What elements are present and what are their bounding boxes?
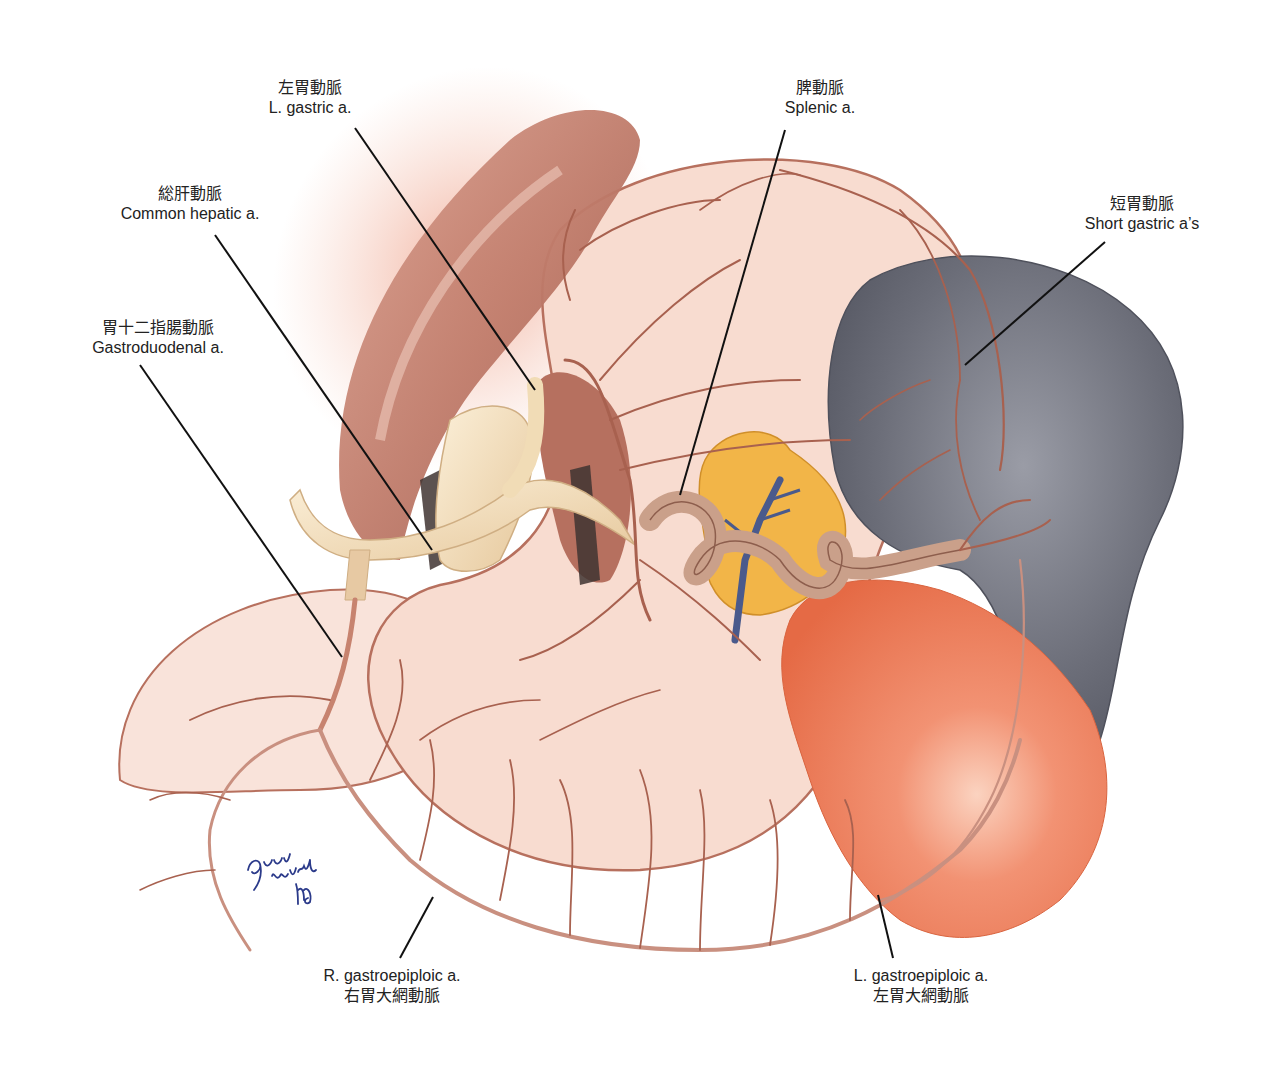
label-en: R. gastroepiploic a. [282,966,502,986]
label-en: Common hepatic a. [90,204,290,224]
label-splenic: 脾動脈 Splenic a. [760,78,880,118]
label-left-gastroepiploic: L. gastroepiploic a. 左胃大網動脈 [818,966,1024,1006]
label-en: Splenic a. [760,98,880,118]
label-jp: 右胃大網動脈 [282,986,502,1006]
label-jp: 左胃大網動脈 [818,986,1024,1006]
label-jp: 脾動脈 [760,78,880,98]
artist-signature: Gary Wind MD [240,820,340,910]
label-gastroduodenal: 胃十二指腸動脈 Gastroduodenal a. [48,318,268,358]
label-right-gastroepiploic: R. gastroepiploic a. 右胃大網動脈 [282,966,502,1006]
label-en: L. gastric a. [245,98,375,118]
label-en: Short gastric a’s [1052,214,1232,234]
label-en: Gastroduodenal a. [48,338,268,358]
label-jp: 短胃動脈 [1052,194,1232,214]
leader-right-gastroepiploic [400,897,433,958]
anatomy-illustration [0,0,1275,1078]
label-jp: 左胃動脈 [245,78,375,98]
label-en: L. gastroepiploic a. [818,966,1024,986]
label-common-hepatic: 総肝動脈 Common hepatic a. [90,184,290,224]
label-left-gastric: 左胃動脈 L. gastric a. [245,78,375,118]
label-jp: 総肝動脈 [90,184,290,204]
label-jp: 胃十二指腸動脈 [48,318,268,338]
label-short-gastric: 短胃動脈 Short gastric a’s [1052,194,1232,234]
